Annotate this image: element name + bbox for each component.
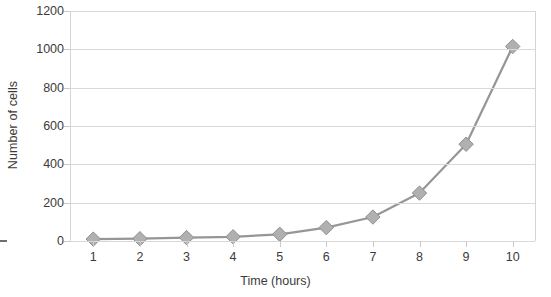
chart-figure: Number of cells 020040060080010001200 12… [0, 0, 551, 297]
y-tick-mark [64, 203, 70, 204]
y-tick-mark [64, 164, 70, 165]
x-tick-label: 1 [90, 250, 97, 264]
x-tick-label: 10 [506, 250, 520, 264]
data-point-marker [506, 39, 520, 53]
y-tick-mark [64, 49, 70, 50]
x-axis-title: Time (hours) [0, 274, 551, 288]
gridline [70, 49, 535, 50]
y-tick-label: 1000 [36, 42, 64, 56]
y-tick-mark [64, 88, 70, 89]
x-tick-label: 7 [369, 250, 376, 264]
x-tick-mark [93, 241, 94, 247]
x-tick-label: 4 [230, 250, 237, 264]
edge-artifact-dash [0, 240, 7, 242]
series-line [93, 46, 512, 239]
y-tick-label: 400 [43, 157, 64, 171]
data-point-marker [273, 227, 287, 241]
x-tick-mark [466, 241, 467, 247]
x-tick-label: 9 [463, 250, 470, 264]
y-axis-tick-labels: 020040060080010001200 [26, 0, 70, 250]
y-axis-title-text: Number of cells [6, 81, 20, 169]
x-tick-mark [187, 241, 188, 247]
x-tick-mark [233, 241, 234, 247]
y-tick-label: 0 [57, 234, 64, 248]
y-tick-mark [64, 126, 70, 127]
y-axis-title: Number of cells [0, 0, 26, 250]
gridline [70, 164, 535, 165]
x-tick-mark [280, 241, 281, 247]
x-tick-mark [326, 241, 327, 247]
y-tick-label: 800 [43, 81, 64, 95]
gridline [70, 203, 535, 204]
gridline [70, 88, 535, 89]
y-tick-label: 600 [43, 119, 64, 133]
x-tick-mark [140, 241, 141, 247]
x-axis-title-text: Time (hours) [240, 274, 310, 288]
y-tick-mark [64, 11, 70, 12]
x-axis-tick-labels: 12345678910 [70, 241, 536, 273]
series-markers [86, 39, 520, 246]
x-tick-label: 5 [276, 250, 283, 264]
y-tick-label: 1200 [36, 4, 64, 18]
data-point-marker [366, 210, 380, 224]
x-tick-label: 8 [416, 250, 423, 264]
x-tick-mark [373, 241, 374, 247]
x-tick-label: 6 [323, 250, 330, 264]
data-point-marker [319, 220, 333, 234]
x-tick-mark [513, 241, 514, 247]
y-tick-label: 200 [43, 196, 64, 210]
y-tick-mark [64, 241, 70, 242]
x-tick-label: 3 [183, 250, 190, 264]
plot-area [70, 11, 536, 241]
x-tick-label: 2 [136, 250, 143, 264]
gridline [70, 11, 535, 12]
gridline [70, 126, 535, 127]
x-tick-mark [420, 241, 421, 247]
